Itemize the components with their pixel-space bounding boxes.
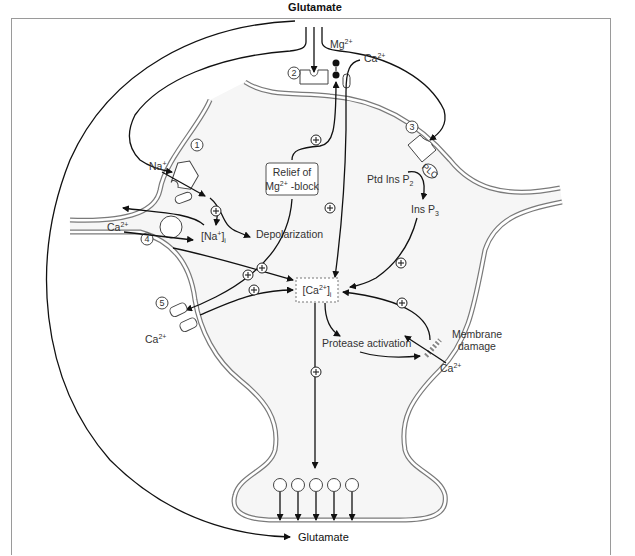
na-intracellular-label: [Na+]i xyxy=(201,230,226,244)
depolarization-label: Depolarization xyxy=(256,228,323,240)
svg-text:5: 5 xyxy=(159,298,164,308)
ca-bottom-left-label: Ca2+ xyxy=(145,333,166,345)
membrane-damage-label-2: damage xyxy=(458,340,496,352)
membrane-damage-label: Membrane xyxy=(452,328,502,340)
glutamate-top-label: Glutamate xyxy=(288,1,342,13)
glutamate-bottom-label: Glutamate xyxy=(298,531,349,543)
ins-p3-label: Ins P3 xyxy=(411,203,439,217)
svg-text:Mg2+ -block: Mg2+ -block xyxy=(265,180,319,192)
ca-right-label: Ca2+ xyxy=(440,362,461,374)
relief-mg-block-box: Relief of Mg2+ -block xyxy=(265,163,319,195)
svg-text:Relief of: Relief of xyxy=(273,166,312,178)
protease-activation-label: Protease activation xyxy=(322,337,411,349)
excitotoxicity-diagram: Glutamate 2 Mg2+ Ca2+ 1 Na+ 3 PLC Ptd In… xyxy=(0,0,635,556)
intracellular-calcium-box: [Ca2+]i xyxy=(296,278,338,302)
ca-top-label: Ca2+ xyxy=(364,52,385,64)
nmda-receptor: 2 xyxy=(288,67,328,84)
mg-block: Mg2+ xyxy=(330,38,353,79)
svg-text:Mg2+: Mg2+ xyxy=(330,38,353,50)
ptd-ins-p2-label: Ptd Ins P2 xyxy=(367,173,414,187)
vgcc-5: 5 xyxy=(156,297,198,333)
svg-text:1: 1 xyxy=(194,140,199,150)
svg-text:2: 2 xyxy=(291,68,296,78)
svg-text:[Ca2+]i: [Ca2+]i xyxy=(303,284,332,298)
svg-text:3: 3 xyxy=(409,122,414,132)
